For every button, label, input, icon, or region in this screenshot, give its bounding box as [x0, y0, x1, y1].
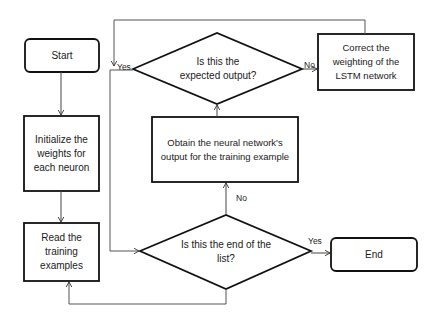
read-label: Read the training examples [34, 223, 89, 281]
end-check-label: Is this the end of the list? [180, 233, 272, 271]
init-label: Initialize the weights for each neuron [30, 116, 93, 191]
no-label-endcheck: No [236, 193, 247, 203]
yes-label-expected: Yes [117, 62, 131, 72]
no-label-expected: No [304, 60, 315, 70]
start-label: Start [25, 39, 99, 72]
correct-label: Correct the weighting of the LSTM networ… [322, 34, 410, 90]
yes-label-endcheck: Yes [308, 236, 322, 246]
end-label: End [331, 238, 417, 271]
arrow-endcheck-read-loop [69, 282, 226, 304]
obtain-label: Obtain the neural network's output for t… [158, 117, 292, 182]
expected-label: Is this the expected output? [175, 50, 261, 88]
arrow-expected-yes-endcheck [110, 70, 139, 251]
